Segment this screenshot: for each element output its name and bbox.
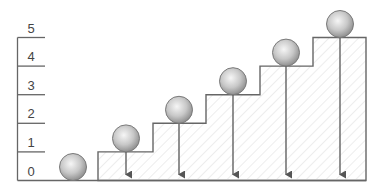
sphere xyxy=(166,96,193,123)
level-label: 1 xyxy=(27,135,34,150)
level-label: 5 xyxy=(27,21,34,36)
level-label: 4 xyxy=(27,49,34,64)
sphere xyxy=(273,39,300,66)
level-label: 0 xyxy=(27,164,34,179)
staircase-diagram: 012345 xyxy=(0,0,379,195)
sphere xyxy=(220,68,247,95)
sphere xyxy=(327,11,354,38)
staircase xyxy=(98,38,366,181)
sphere xyxy=(113,125,140,152)
sphere xyxy=(60,154,87,181)
level-label: 2 xyxy=(27,106,34,121)
staircase-shape xyxy=(98,38,366,181)
level-label: 3 xyxy=(27,78,34,93)
